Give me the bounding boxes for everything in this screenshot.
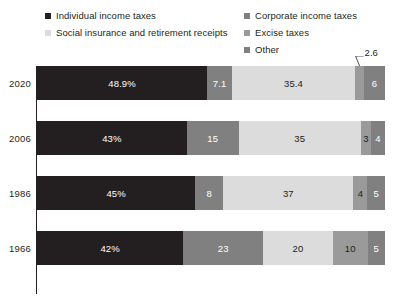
- legend-item-other: Other: [244, 42, 357, 57]
- legend-swatch-social-icon: [45, 30, 51, 36]
- legend-swatch-other-icon: [244, 47, 250, 53]
- legend-swatch-excise-icon: [244, 30, 250, 36]
- legend-column-left: Individual income taxes Social insurance…: [45, 8, 228, 42]
- legend-item-excise: Excise taxes: [244, 25, 357, 40]
- callout-value-label: 2.6: [365, 47, 378, 58]
- legend-label-individual: Individual income taxes: [56, 10, 156, 21]
- chart-legend: Individual income taxes Social insurance…: [0, 0, 397, 56]
- legend-swatch-corporate-icon: [244, 13, 250, 19]
- stacked-bar-chart: Individual income taxes Social insurance…: [0, 0, 397, 304]
- callout-leader-line: [0, 56, 397, 304]
- legend-item-individual: Individual income taxes: [45, 8, 228, 23]
- legend-label-other: Other: [255, 44, 279, 55]
- plot-area: 202048.9%7.135.46200643%153534198645%837…: [0, 56, 397, 304]
- legend-item-corporate: Corporate income taxes: [244, 8, 357, 23]
- legend-item-social: Social insurance and retirement receipts: [45, 25, 228, 40]
- legend-swatch-individual-icon: [45, 13, 51, 19]
- legend-label-social: Social insurance and retirement receipts: [56, 27, 228, 38]
- legend-label-corporate: Corporate income taxes: [255, 10, 357, 21]
- legend-label-excise: Excise taxes: [255, 27, 309, 38]
- legend-column-right: Corporate income taxes Excise taxes Othe…: [244, 8, 357, 59]
